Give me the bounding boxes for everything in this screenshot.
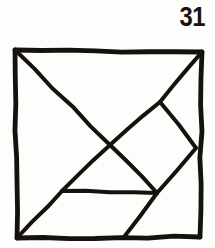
anti-diagonal-upper bbox=[160, 52, 202, 102]
horizontal-chord bbox=[62, 191, 157, 193]
tangram-drawing bbox=[0, 0, 215, 248]
bottom-left-diagonal bbox=[17, 191, 62, 238]
outline-edge-right bbox=[200, 52, 202, 237]
outline-edge-left bbox=[15, 50, 18, 238]
outline-edge-top bbox=[15, 50, 202, 52]
main-diagonal-lower bbox=[110, 145, 157, 193]
anti-diagonal-lower bbox=[62, 145, 110, 191]
right-lower-branch bbox=[157, 148, 196, 193]
bottom-right-diagonal bbox=[124, 193, 157, 237]
interior-line-group bbox=[15, 50, 202, 238]
outline-edge-bottom bbox=[17, 236, 200, 238]
right-upper-branch bbox=[160, 102, 196, 148]
tangram-figure: 31 bbox=[0, 0, 215, 248]
main-diagonal-upper bbox=[15, 50, 110, 145]
anti-diagonal-middle bbox=[110, 102, 160, 145]
